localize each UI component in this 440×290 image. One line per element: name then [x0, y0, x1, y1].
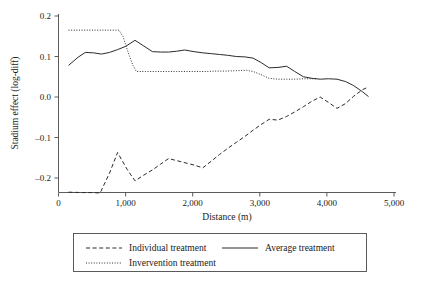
legend-entries: Individual treatmentAverage treatmentInv…	[86, 243, 335, 268]
legend-label: Invervention treatment	[129, 258, 216, 268]
stadium-effect-line-chart: 0.20.10.0–0.1–0.2 01,0002,0003,0004,0005…	[0, 0, 440, 290]
chart-figure: 0.20.10.0–0.1–0.2 01,0002,0003,0004,0005…	[0, 0, 440, 290]
series-line-average-treatment	[69, 40, 369, 96]
x-tick-label: 1,000	[115, 198, 136, 208]
x-axis-title: Distance (m)	[202, 212, 251, 223]
y-tick-label: 0.1	[40, 52, 51, 62]
x-tick-label: 3,000	[250, 198, 271, 208]
legend-label: Average treatment	[265, 243, 335, 253]
y-tick-label: 0.2	[40, 11, 51, 21]
legend-label: Individual treatment	[129, 243, 207, 253]
series-line-individual-treatment	[69, 87, 369, 193]
y-axis-ticks: 0.20.10.0–0.1–0.2	[34, 11, 58, 183]
series-line-invervention-treatment	[69, 30, 318, 79]
y-tick-label: –0.1	[34, 133, 51, 143]
x-tick-label: 4,000	[317, 198, 338, 208]
x-tick-label: 5,000	[384, 198, 405, 208]
series-group	[69, 30, 369, 193]
y-tick-label: –0.2	[34, 173, 51, 183]
x-tick-label: 0	[56, 198, 61, 208]
x-axis-ticks: 01,0002,0003,0004,0005,000	[56, 193, 404, 209]
y-axis-title: Stadium effect (log-diff)	[10, 56, 21, 149]
x-tick-label: 2,000	[183, 198, 204, 208]
y-tick-label: 0.0	[40, 92, 52, 102]
